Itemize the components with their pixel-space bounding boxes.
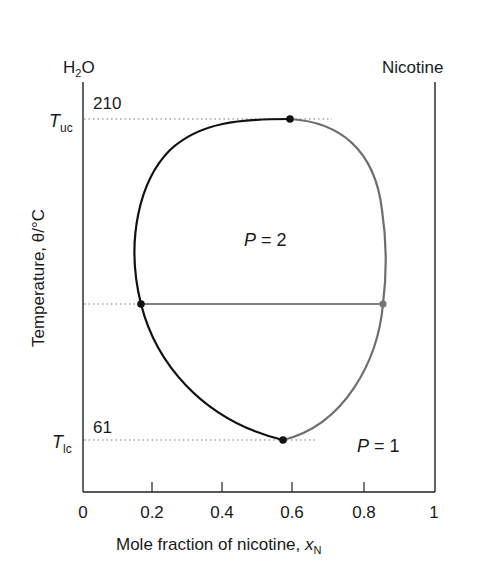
upper-critical-point	[286, 115, 294, 123]
lower-critical-point	[279, 436, 287, 444]
y-axis-label: Temperature, θ/°C	[29, 209, 48, 347]
water-rich-branch	[134, 119, 290, 440]
phase-diagram: H2O Nicotine 210 Tuc 61 Tlc P = 2 P = 1 …	[0, 0, 493, 587]
region-p2-label: P = 2	[244, 230, 287, 250]
svg-text:0.2: 0.2	[140, 503, 164, 522]
tlc-label: Tlc	[52, 432, 72, 456]
tieline-right-point	[379, 300, 386, 307]
x-ticks	[152, 482, 364, 492]
svg-text:0.8: 0.8	[352, 503, 376, 522]
svg-text:0.6: 0.6	[280, 503, 304, 522]
x-tick-labels: 0 0.2 0.4 0.6 0.8 1	[78, 503, 438, 522]
tuc-label: Tuc	[49, 111, 73, 135]
tuc-value: 210	[93, 94, 121, 113]
tlc-value: 61	[93, 418, 112, 437]
tieline-left-point	[137, 300, 145, 308]
nicotine-rich-branch	[283, 119, 386, 440]
svg-text:0.4: 0.4	[210, 503, 234, 522]
nicotine-label: Nicotine	[382, 58, 443, 77]
x-axis-label: Mole fraction of nicotine, xN	[116, 535, 321, 556]
svg-text:0: 0	[78, 503, 87, 522]
region-p1-label: P = 1	[357, 436, 400, 456]
h2o-label: H2O	[63, 58, 95, 79]
svg-text:1: 1	[429, 503, 438, 522]
